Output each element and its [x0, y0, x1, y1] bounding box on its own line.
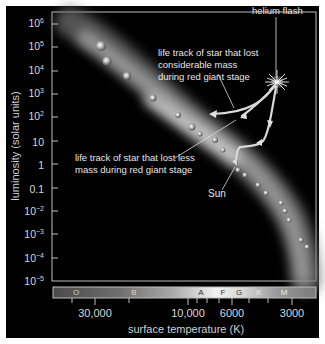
y-tick-1e6: 106: [10, 18, 44, 29]
spectral-class-b: B: [131, 288, 136, 297]
y-tick-1e-5: 10−5: [10, 276, 44, 287]
annotation-sun: Sun: [208, 188, 226, 200]
y-tick-1e5: 105: [10, 41, 44, 52]
annotation-helium-flash: helium flash: [252, 5, 303, 17]
spectral-class-g: G: [236, 288, 242, 297]
spectral-class-o: O: [73, 288, 79, 297]
y-tick-1e-3: 10−3: [10, 229, 44, 240]
x-tick-10000: 10,000: [171, 307, 205, 319]
annotation-considerable-line-1: life track of star that lost: [158, 47, 258, 59]
y-tick-1e-4: 10−4: [10, 253, 44, 264]
annotation-considerable-line-3: during red giant stage: [158, 71, 250, 83]
x-axis-title: surface temperature (K): [128, 323, 244, 335]
x-tick-30000: 30,000: [78, 307, 112, 319]
y-tick-1e4: 104: [10, 65, 44, 76]
helium-flash-burst: [265, 70, 289, 94]
x-axis-ticks: [72, 298, 292, 305]
y-tick-1e-2: 10−2: [10, 206, 44, 217]
track-intermediate: [242, 86, 275, 116]
spectral-class-k: K: [256, 288, 261, 297]
spectral-class-bar: [53, 287, 316, 298]
annotation-less-line-1: life track of star that lost less: [75, 152, 195, 164]
spectral-class-f: F: [221, 288, 226, 297]
spectral-class-a: A: [198, 288, 203, 297]
y-axis-ticks: [52, 24, 58, 258]
annotation-considerable-line-2: considerable mass: [158, 59, 237, 71]
spectral-class-m: M: [281, 288, 288, 297]
y-axis-title: luminosity (solar units): [9, 86, 21, 206]
x-tick-6000: 6000: [220, 307, 244, 319]
track-considerable-mass: [212, 85, 275, 114]
x-tick-3000: 3000: [280, 307, 304, 319]
annotation-less-line-2: mass during red giant stage: [75, 164, 192, 176]
